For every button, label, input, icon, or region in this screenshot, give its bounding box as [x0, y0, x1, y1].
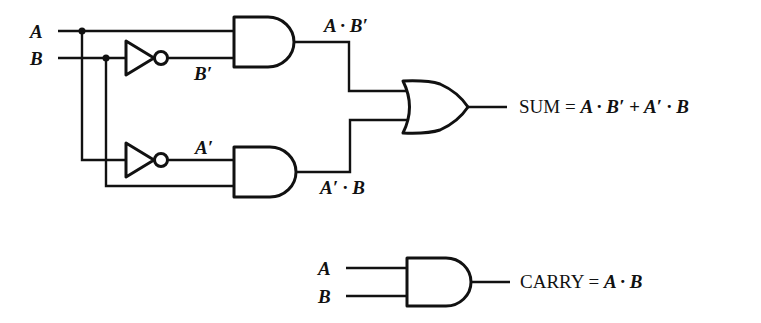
- circuit-drawing: [0, 0, 761, 323]
- or-gate-sum: [403, 81, 468, 133]
- a-and-bnot-label: A · B′: [324, 16, 368, 35]
- inverter-a: [126, 143, 168, 177]
- sum-expression: A · B′ + A′ · B: [580, 96, 688, 117]
- and-gate-top: [234, 17, 294, 67]
- carry-word: CARRY: [520, 271, 584, 292]
- junction-b: [103, 55, 110, 62]
- wire-a-branch: [82, 31, 126, 160]
- carry-equals: =: [588, 271, 599, 292]
- sum-equation: SUM = A · B′ + A′ · B: [519, 97, 689, 116]
- sum-equals: =: [565, 96, 576, 117]
- input-b-label: B: [30, 49, 43, 68]
- b-not-label: B′: [194, 64, 212, 83]
- inverter-b: [126, 41, 168, 75]
- half-adder-diagram: A B B′ A′ A · B′ A′ · B SUM = A · B′ + A…: [0, 0, 761, 323]
- junction-a: [79, 28, 86, 35]
- wire-bottom-and-to-or: [296, 120, 408, 172]
- anot-and-b-label: A′ · B: [320, 178, 365, 197]
- sum-word: SUM: [519, 96, 560, 117]
- input-a-label: A: [30, 22, 43, 41]
- carry-expression: A · B: [604, 271, 643, 292]
- carry-input-b-label: B: [318, 287, 331, 306]
- carry-input-a-label: A: [318, 259, 331, 278]
- a-not-label: A′: [195, 138, 213, 157]
- carry-equation: CARRY = A · B: [520, 272, 643, 291]
- and-gate-carry: [407, 258, 471, 306]
- wire-top-and-to-or: [294, 42, 408, 91]
- and-gate-bottom: [234, 147, 296, 197]
